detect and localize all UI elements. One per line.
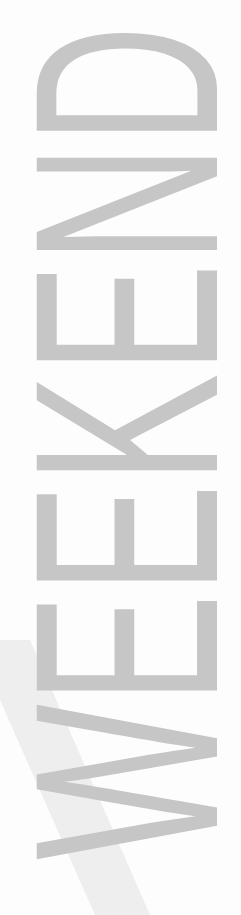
weekend-poster: WEEKEND xyxy=(0,0,241,915)
weekend-word-graphic: WEEKEND xyxy=(0,0,241,915)
weekend-word: WEEKEND xyxy=(0,25,241,860)
